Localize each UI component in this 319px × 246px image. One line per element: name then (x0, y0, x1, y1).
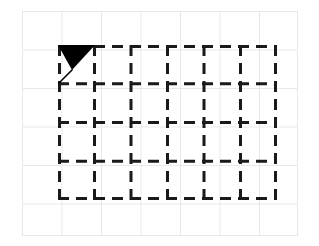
dashed-measurement-grid (58, 45, 277, 200)
dashed-grid-svg (58, 45, 277, 200)
grid-figure (0, 0, 319, 246)
